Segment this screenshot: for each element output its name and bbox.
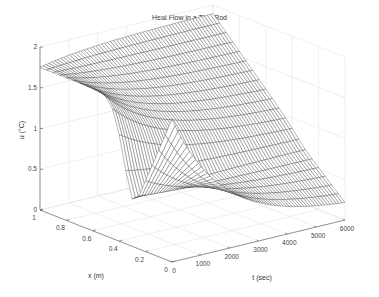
mesh-surface <box>40 14 345 207</box>
t-tick: 0 <box>172 267 176 274</box>
z-tick: 0.5 <box>28 165 37 172</box>
z-tick: 0 <box>33 206 37 213</box>
z-tick: 1.5 <box>28 84 37 91</box>
z-tick: 2 <box>33 43 37 50</box>
t-tick: 4000 <box>282 239 297 246</box>
x-tick: 0.4 <box>109 245 118 252</box>
surface-plot: 00.511.5200.20.40.60.8101000200030004000… <box>0 0 379 297</box>
x-tick: 0.6 <box>82 235 91 242</box>
z-tick: 1 <box>33 125 37 132</box>
t-tick: 5000 <box>311 232 326 239</box>
t-axis-label: t (sec) <box>252 274 271 282</box>
x-axis-label: x (m) <box>88 272 104 280</box>
x-tick: 0.8 <box>56 224 65 231</box>
t-tick: 1000 <box>196 260 211 267</box>
x-tick: 0.2 <box>135 256 144 263</box>
t-tick: 6000 <box>340 225 355 232</box>
z-axis-label: u (°C) <box>18 121 26 139</box>
t-tick: 3000 <box>253 246 268 253</box>
x-tick: 0 <box>164 266 168 273</box>
t-tick: 2000 <box>224 253 239 260</box>
x-tick: 1 <box>32 214 36 221</box>
